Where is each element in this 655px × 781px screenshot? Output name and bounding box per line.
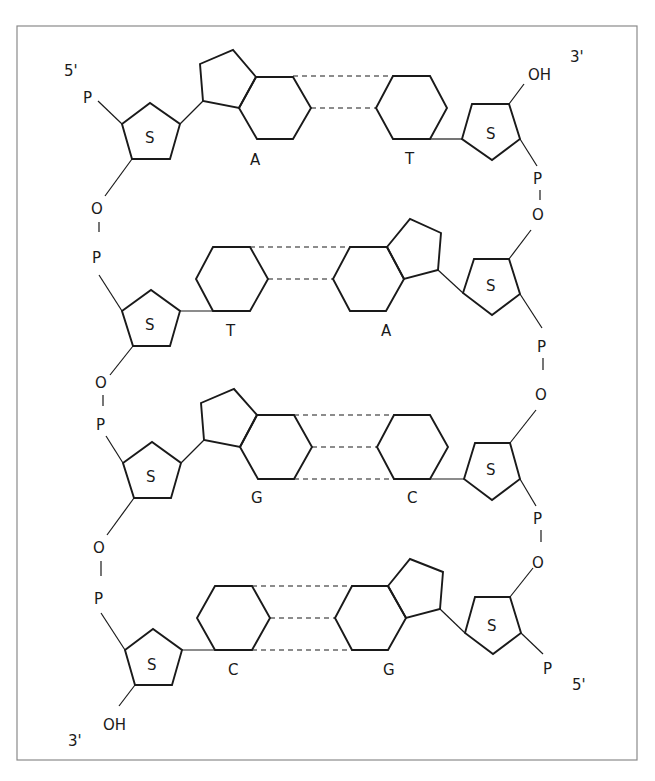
phosphate-label: P <box>533 510 542 528</box>
sugar-label: S <box>147 656 157 674</box>
purine-5-ring <box>387 219 441 279</box>
pyrimidine-ring <box>197 586 270 650</box>
purine-5-ring <box>201 389 257 447</box>
purine-6-ring <box>335 586 406 650</box>
sugar-label: S <box>146 468 156 486</box>
phosphate-label: P <box>94 590 103 608</box>
hydroxyl-label: OH <box>528 66 551 84</box>
strand-end-5prime-top-left: 5' <box>64 62 78 80</box>
base-pair-row-2: S T A S P O <box>99 219 547 404</box>
phosphate-label: P <box>83 89 92 107</box>
strand-end-3prime-bottom-left: 3' <box>68 732 82 750</box>
phosphate-label: P <box>543 660 552 678</box>
phosphate-label: P <box>533 170 542 188</box>
oxygen-label: O <box>532 554 544 572</box>
purine-6-ring <box>333 247 404 311</box>
sugar-label: S <box>486 125 496 143</box>
sugar-label: S <box>486 461 496 479</box>
purine-5-ring <box>200 50 256 108</box>
oxygen-label: O <box>93 539 105 557</box>
phosphate-label: P <box>92 249 101 267</box>
sugar-label: S <box>145 129 155 147</box>
sugar-label: S <box>486 277 496 295</box>
phosphate-label: P <box>96 416 105 434</box>
purine-6-ring <box>240 415 312 479</box>
oxygen-label: O <box>91 200 103 218</box>
oxygen-label: O <box>95 374 107 392</box>
base-label-right: T <box>404 150 415 168</box>
sugar-label: S <box>487 617 497 635</box>
base-label-right: A <box>381 322 392 340</box>
base-pair-row-4: S OH 3' C G S P 5' <box>68 559 586 750</box>
phosphate-label: P <box>537 338 546 356</box>
base-pair-row-3: S G C S P O <box>106 389 544 572</box>
oxygen-label: O <box>535 386 547 404</box>
strand-end-3prime-top-right: 3' <box>570 48 584 66</box>
purine-5-ring <box>388 559 443 618</box>
base-label-left: C <box>228 661 238 679</box>
base-label-right: G <box>383 661 395 679</box>
base-label-left: T <box>225 322 236 340</box>
hydroxyl-label: OH <box>103 716 126 734</box>
pyrimidine-ring <box>377 415 448 479</box>
dna-diagram: P 5' S A T S OH 3' P O O P <box>0 0 655 781</box>
base-label-left: G <box>251 489 263 507</box>
pyrimidine-ring <box>196 247 268 311</box>
strand-end-5prime-bottom-right: 5' <box>572 676 586 694</box>
base-label-right: C <box>407 489 417 507</box>
base-label-left: A <box>250 151 261 169</box>
sugar-label: S <box>145 316 155 334</box>
purine-6-ring <box>239 77 311 139</box>
oxygen-label: O <box>532 206 544 224</box>
base-pair-row-1: P 5' S A T S OH 3' P O <box>64 48 584 224</box>
pyrimidine-ring <box>376 76 447 139</box>
